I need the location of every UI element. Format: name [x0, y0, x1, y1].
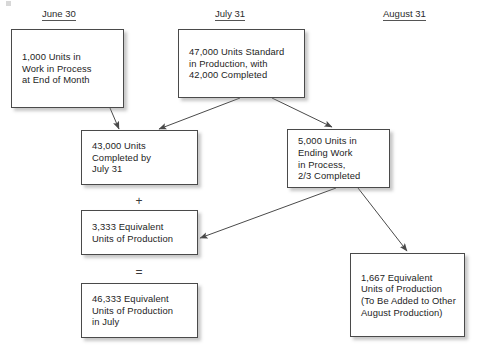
- column-header-june: June 30: [42, 8, 76, 21]
- box-equivalent-units-3333-text: 3,333 Equivalent Units of Production: [92, 221, 173, 244]
- box-ending-wip: 5,000 Units in Ending Work in Process, 2…: [287, 129, 390, 188]
- box-equivalent-units-1667: 1,667 Equivalent Units of Production (To…: [350, 253, 465, 337]
- box-equivalent-units-july-total-text: 46,333 Equivalent Units of Production in…: [92, 293, 173, 328]
- page-corner-mark: [6, 1, 11, 6]
- diagram-canvas: June 30 July 31 August 31 1,000 Units in…: [0, 0, 479, 348]
- arrow-standard-production-to-ending-wip: [272, 98, 332, 127]
- box-units-completed-text: 43,000 Units Completed by July 31: [92, 140, 151, 175]
- column-header-july: July 31: [215, 8, 245, 21]
- box-equivalent-units-1667-text: 1,667 Equivalent Units of Production (To…: [361, 272, 456, 318]
- operator-plus: +: [132, 195, 146, 207]
- box-standard-production-text: 47,000 Units Standard in Production, wit…: [189, 46, 284, 81]
- arrow-ending-wip-to-equivalent-units-3333: [200, 188, 336, 238]
- box-beginning-wip-text: 1,000 Units in Work in Process at End of…: [22, 51, 92, 86]
- arrow-beginning-wip-to-units-completed: [110, 108, 119, 129]
- arrow-standard-production-to-units-completed: [159, 98, 240, 129]
- box-units-completed: 43,000 Units Completed by July 31: [81, 130, 198, 185]
- box-equivalent-units-3333: 3,333 Equivalent Units of Production: [81, 210, 198, 255]
- column-header-august: August 31: [383, 8, 426, 21]
- box-standard-production: 47,000 Units Standard in Production, wit…: [178, 29, 305, 98]
- box-equivalent-units-july-total: 46,333 Equivalent Units of Production in…: [81, 283, 198, 338]
- arrow-ending-wip-to-equivalent-units-1667: [358, 188, 407, 251]
- operator-equals: =: [132, 266, 146, 278]
- box-beginning-wip: 1,000 Units in Work in Process at End of…: [11, 29, 124, 108]
- box-ending-wip-text: 5,000 Units in Ending Work in Process, 2…: [298, 135, 360, 181]
